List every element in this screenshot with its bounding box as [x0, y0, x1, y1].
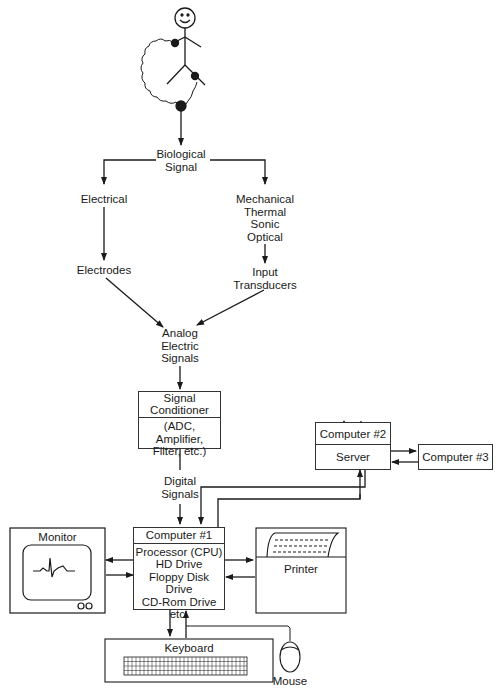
- node-monitor: Monitor: [10, 531, 105, 544]
- signal-conditioner-detail: (ADC, Amplifier, Filter, etc.): [139, 418, 220, 458]
- node-mechanical: Mechanical Thermal Sonic Optical: [225, 193, 305, 243]
- computer1-detail: Processor (CPU) HD Drive Floppy Disk Dri…: [134, 544, 224, 620]
- server-box: Server: [315, 444, 391, 470]
- node-keyboard: Keyboard: [105, 642, 273, 655]
- node-biological-signal: Biological Signal: [143, 148, 219, 173]
- computer1-title: Computer #1: [134, 528, 224, 544]
- diagram-lines: [0, 0, 504, 695]
- node-electrical: Electrical: [64, 193, 144, 206]
- node-input-transducers: Input Transducers: [225, 266, 305, 291]
- signal-conditioner-title: Signal Conditioner: [139, 392, 220, 418]
- node-printer: Printer: [256, 563, 346, 576]
- node-mouse: Mouse: [265, 675, 315, 688]
- computer3-box: Computer #3: [418, 444, 493, 470]
- stick-figure-icon: [141, 8, 205, 111]
- mouse-icon: [280, 642, 300, 672]
- node-analog-signals: Analog Electric Signals: [140, 327, 220, 365]
- node-electrodes: Electrodes: [64, 264, 144, 277]
- computer1-box: Computer #1 Processor (CPU) HD Drive Flo…: [133, 527, 225, 610]
- node-digital-signals: Digital Signals: [140, 475, 220, 500]
- signal-conditioner-box: Signal Conditioner (ADC, Amplifier, Filt…: [138, 391, 221, 449]
